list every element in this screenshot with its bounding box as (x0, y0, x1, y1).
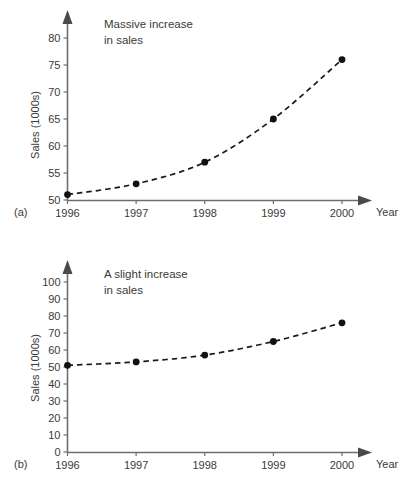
chart-b-markers (64, 319, 345, 368)
chart-b-y-axis-title: Sales (1000s) (29, 334, 41, 402)
chart-b-data-point (133, 359, 140, 366)
chart-b-x-tick-label: 1996 (55, 459, 79, 471)
chart-a-data-point (64, 191, 71, 198)
chart-a-x-axis-title: Year (376, 206, 399, 218)
chart-b-y-tick-label: 70 (48, 327, 60, 339)
chart-b-annotation-line1: A slight increase (104, 268, 188, 280)
chart-b-data-point (201, 352, 208, 359)
chart-a-data-point (201, 159, 208, 166)
chart-b-y-tick-label: 60 (48, 344, 60, 356)
chart-a-x-tick-labels: 19961997199819992000 (55, 207, 354, 219)
chart-a-data-point (133, 180, 140, 187)
chart-a-annotation-line2: in sales (104, 34, 143, 46)
chart-b-data-point (339, 319, 346, 326)
chart-a-y-tick-label: 65 (48, 113, 60, 125)
chart-a-y-tick-labels: 50556065707580 (48, 32, 60, 206)
chart-b-series-line (68, 323, 343, 366)
chart-b-x-tick-labels: 19961997199819992000 (55, 459, 354, 471)
chart-a-y-tick-label: 75 (48, 59, 60, 71)
chart-a-y-tick-label: 50 (48, 194, 60, 206)
chart-a-annotation-line1: Massive increase (104, 18, 193, 30)
chart-a-svg: 50556065707580 19961997199819992000 Sale… (0, 0, 407, 240)
chart-b-y-tick-label: 90 (48, 293, 60, 305)
chart-b-x-tick-label: 2000 (330, 459, 354, 471)
chart-a-x-tick-label: 1999 (261, 207, 285, 219)
chart-a-markers (64, 56, 345, 198)
chart-b-panel-label: (b) (14, 458, 27, 470)
chart-b-y-tick-label: 10 (48, 429, 60, 441)
chart-a-series-line (68, 60, 343, 195)
chart-a-y-tick-label: 60 (48, 140, 60, 152)
chart-a-y-tick-label: 80 (48, 32, 60, 44)
chart-b-y-tick-labels: 0102030405060708090100 (42, 276, 60, 458)
chart-b-x-tick-label: 1999 (261, 459, 285, 471)
chart-b-y-tick-label: 80 (48, 310, 60, 322)
chart-a-y-tick-label: 70 (48, 86, 60, 98)
chart-a-y-axis-arrowhead (63, 10, 73, 24)
chart-a-data-point (339, 56, 346, 63)
chart-b-y-tick-label: 40 (48, 378, 60, 390)
chart-a-y-tick-label: 55 (48, 167, 60, 179)
chart-b-x-tick-label: 1997 (124, 459, 148, 471)
chart-b-y-tick-label: 30 (48, 395, 60, 407)
chart-a-x-axis-arrowhead (358, 196, 372, 206)
chart-a-y-axis-title: Sales (1000s) (29, 91, 41, 159)
chart-b-x-axis-title: Year (376, 458, 399, 470)
chart-a-x-tick-label: 1996 (55, 207, 79, 219)
chart-a-x-tick-label: 1997 (124, 207, 148, 219)
chart-a-x-tick-label: 2000 (330, 207, 354, 219)
chart-b-x-tick-label: 1998 (193, 459, 217, 471)
chart-b-y-axis-arrowhead (63, 260, 73, 274)
chart-panel-b: 0102030405060708090100 19961997199819992… (0, 240, 407, 483)
chart-a-data-point (270, 116, 277, 123)
chart-b-y-tick-label: 0 (54, 446, 60, 458)
chart-panel-a: 50556065707580 19961997199819992000 Sale… (0, 0, 407, 240)
chart-b-data-point (64, 362, 71, 369)
chart-b-x-axis-arrowhead (358, 448, 372, 458)
chart-b-annotation-line2: in sales (104, 284, 143, 296)
chart-b-y-tick-label: 100 (42, 276, 60, 288)
chart-a-x-tick-label: 1998 (193, 207, 217, 219)
chart-a-panel-label: (a) (14, 206, 27, 218)
chart-b-y-tick-label: 20 (48, 412, 60, 424)
chart-b-y-tick-label: 50 (48, 361, 60, 373)
chart-b-svg: 0102030405060708090100 19961997199819992… (0, 240, 407, 483)
chart-b-data-point (270, 338, 277, 345)
